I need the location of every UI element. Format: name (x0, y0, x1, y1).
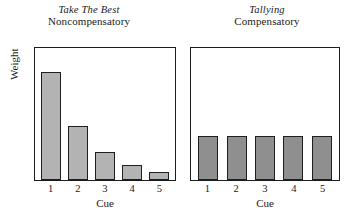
panel-title-group: Take The Best Noncompensatory (0, 4, 178, 28)
x-tick-label: 4 (122, 184, 142, 195)
panel-title-group: Tallying Compensatory (178, 4, 356, 28)
x-axis-label: Cue (190, 198, 340, 209)
bar (312, 136, 332, 180)
x-tick-label: 5 (313, 184, 333, 195)
x-tick-label: 2 (68, 184, 88, 195)
y-axis-label: Weight (9, 49, 20, 81)
x-tick-label: 3 (255, 184, 275, 195)
x-axis-tick-labels: 1 2 3 4 5 (34, 184, 176, 195)
bar (283, 136, 303, 180)
panel-title-subtitle: Noncompensatory (0, 16, 178, 28)
x-tick-label: 2 (226, 184, 246, 195)
bar (227, 136, 247, 180)
bar-group (35, 48, 175, 180)
bar (122, 165, 142, 180)
bar (68, 126, 88, 180)
x-tick-label: 1 (41, 184, 61, 195)
x-tick-label: 1 (197, 184, 217, 195)
x-tick-label: 4 (284, 184, 304, 195)
bar (41, 72, 61, 180)
chart-panel-take-the-best: Take The Best Noncompensatory Weight 1 2… (0, 0, 178, 223)
panel-title-method: Tallying (178, 4, 356, 15)
bar (149, 172, 169, 180)
x-axis-label: Cue (34, 198, 176, 209)
panel-title-method: Take The Best (0, 4, 178, 15)
figure: Take The Best Noncompensatory Weight 1 2… (0, 0, 356, 223)
bar (95, 152, 115, 180)
bar (255, 136, 275, 180)
bar (198, 136, 218, 180)
chart-panel-tallying: Tallying Compensatory 1 2 3 4 5 Cue (178, 0, 356, 223)
x-axis-tick-labels: 1 2 3 4 5 (190, 184, 340, 195)
plot-area (190, 47, 340, 181)
x-tick-label: 5 (149, 184, 169, 195)
plot-area (34, 47, 176, 181)
panel-title-subtitle: Compensatory (178, 16, 356, 28)
bar-group (191, 48, 339, 180)
x-tick-label: 3 (95, 184, 115, 195)
